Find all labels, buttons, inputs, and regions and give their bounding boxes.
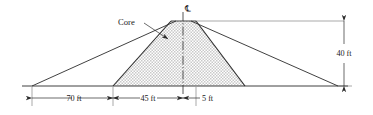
- dim-label-5ft: 5 ft: [202, 94, 214, 103]
- dim-label-40ft: 40 ft: [336, 49, 352, 58]
- dam-core-region: [113, 21, 245, 86]
- dam-diagram-svg: ℄ Core 70 ft 45 ft 5 ft 40 ft: [0, 0, 373, 115]
- core-label: Core: [118, 17, 135, 27]
- dim-label-70ft: 70 ft: [66, 94, 82, 103]
- dim-label-45ft: 45 ft: [140, 94, 156, 103]
- dam-cross-section-figure: ℄ Core 70 ft 45 ft 5 ft 40 ft: [0, 0, 373, 115]
- centerline-symbol-label: ℄: [184, 4, 191, 14]
